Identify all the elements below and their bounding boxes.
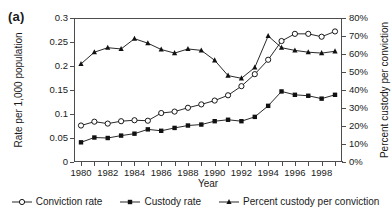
x-axis-tick [201, 162, 202, 166]
filled-square-marker [199, 122, 203, 126]
x-axis-tick-label: 1992 [231, 168, 252, 178]
filled-square-marker [333, 93, 337, 97]
y-axis-left-title-text: Rate per 1,000 population [12, 18, 26, 162]
open-circle-marker [319, 34, 324, 39]
y-axis-right-tick [342, 144, 346, 145]
x-axis-tick [94, 162, 95, 166]
y-axis-right-tick-label: 10% [349, 139, 368, 149]
open-circle-marker [119, 119, 124, 124]
data-series-layer [74, 18, 342, 162]
filled-square-marker [212, 119, 216, 123]
open-circle-marker [199, 102, 204, 107]
filled-triangle-marker [279, 45, 284, 50]
y-axis-left-title: Rate per 1,000 population [12, 18, 26, 162]
x-axis-tick-label: 1988 [177, 168, 198, 178]
y-axis-right-title: Percent custody per conviction [378, 18, 392, 162]
filled-square-marker [128, 199, 132, 203]
open-circle-marker [279, 38, 284, 43]
y-axis-right-tick [342, 108, 346, 109]
series-percent-custody-per-conviction [78, 33, 337, 80]
x-axis-tick [335, 162, 336, 166]
filled-square-marker [266, 104, 270, 108]
filled-triangle-marker [266, 33, 271, 38]
open-circle-marker [105, 121, 110, 126]
filled-triangle-marker [78, 61, 83, 66]
filled-triangle-marker [132, 36, 137, 41]
filled-triangle-marker [252, 65, 257, 70]
x-axis-tick [215, 162, 216, 166]
filled-square-marker [253, 115, 257, 119]
filled-square-marker [159, 129, 163, 133]
filled-triangle-marker [105, 45, 110, 50]
filled-square-marker [132, 131, 136, 135]
x-axis-tick-label: 1980 [70, 168, 91, 178]
open-circle-marker [239, 84, 244, 89]
y-axis-left-tick-label: 0.05 [50, 133, 69, 143]
x-axis-tick [282, 162, 283, 166]
open-circle-marker [92, 119, 97, 124]
y-axis-right-tick-label: 60% [349, 49, 368, 59]
y-axis-right-tick [342, 90, 346, 91]
x-axis-tick-label: 1984 [124, 168, 145, 178]
x-axis-tick-label: 1986 [151, 168, 172, 178]
x-axis-tick [148, 162, 149, 166]
x-axis-tick [322, 162, 323, 166]
filled-square-marker [79, 140, 83, 144]
open-circle-marker [292, 31, 297, 36]
x-axis-tick-label: 1994 [258, 168, 279, 178]
chart-legend: Conviction rateCustody ratePercent custo… [0, 196, 390, 207]
open-circle-marker [306, 31, 311, 36]
x-axis-tick [228, 162, 229, 166]
open-circle-marker [185, 105, 190, 110]
legend-swatch [218, 197, 240, 207]
x-axis-tick-label: 1996 [284, 168, 305, 178]
x-axis-title: Year [74, 178, 342, 189]
x-axis-tick [81, 162, 82, 166]
open-circle-marker [78, 123, 83, 128]
x-axis-tick [241, 162, 242, 166]
y-axis-left-tick-label: 0 [63, 157, 68, 167]
filled-square-marker [146, 127, 150, 131]
series-line [81, 31, 335, 125]
legend-item[interactable]: Custody rate [119, 196, 201, 207]
filled-triangle-marker [185, 46, 190, 51]
x-axis-tick [295, 162, 296, 166]
y-axis-right-tick-label: 20% [349, 121, 368, 131]
filled-square-marker [239, 119, 243, 123]
y-axis-left-tick [70, 162, 74, 163]
legend-item[interactable]: Conviction rate [11, 196, 103, 207]
x-axis-tick [175, 162, 176, 166]
legend-label: Conviction rate [36, 196, 103, 207]
x-axis-tick [255, 162, 256, 166]
y-axis-right-tick [342, 18, 346, 19]
series-line [81, 36, 335, 78]
x-axis-tick [161, 162, 162, 166]
filled-square-marker [186, 123, 190, 127]
y-axis-left-tick-label: 0.3 [55, 13, 68, 23]
filled-square-marker [226, 118, 230, 122]
x-axis-tick [134, 162, 135, 166]
y-axis-right-tick [342, 54, 346, 55]
x-axis-tick [108, 162, 109, 166]
filled-triangle-marker [212, 57, 217, 62]
legend-swatch [119, 197, 141, 207]
y-axis-right-tick-label: 80% [349, 13, 368, 23]
x-axis-tick [268, 162, 269, 166]
open-circle-marker [172, 109, 177, 114]
open-circle-marker [332, 29, 337, 34]
open-circle-marker [266, 57, 271, 62]
open-circle-marker [225, 93, 230, 98]
open-circle-marker [19, 199, 24, 204]
open-circle-marker [159, 110, 164, 115]
y-axis-right-tick [342, 126, 346, 127]
x-axis-tick-label: 1998 [311, 168, 332, 178]
y-axis-right-tick [342, 162, 346, 163]
y-axis-left-tick-label: 0.1 [55, 109, 68, 119]
filled-square-marker [172, 126, 176, 130]
filled-square-marker [306, 94, 310, 98]
legend-item[interactable]: Percent custody per conviction [218, 196, 379, 207]
legend-label: Custody rate [144, 196, 201, 207]
filled-square-marker [119, 133, 123, 137]
x-axis-tick [308, 162, 309, 166]
